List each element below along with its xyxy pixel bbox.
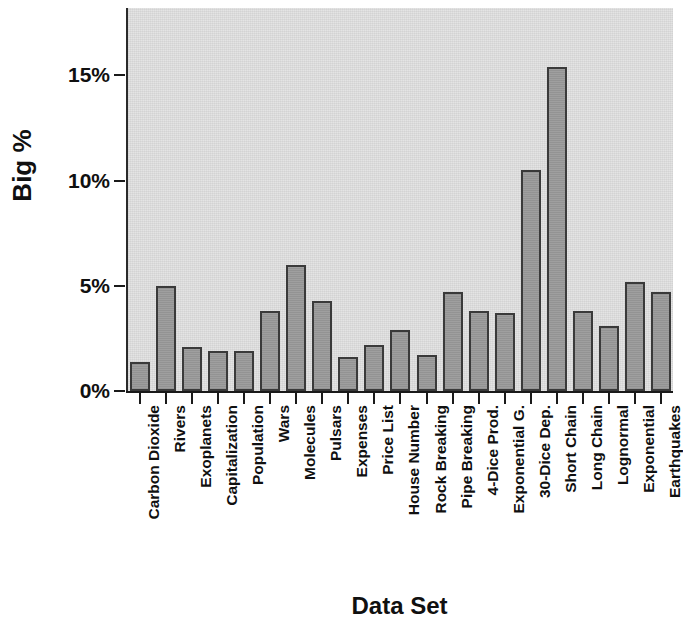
y-tick-mark [114, 285, 125, 287]
bar [573, 311, 593, 391]
x-tick-mark [556, 393, 558, 404]
y-axis-ticks: 0%5%10%15% [48, 0, 110, 630]
x-category-label: 4-Dice Prod. [485, 405, 501, 495]
x-tick-mark [660, 393, 662, 404]
bars-layer [126, 8, 673, 391]
bar [130, 362, 150, 391]
bar [495, 313, 515, 391]
x-category-label: Exponential [641, 405, 657, 493]
bar [625, 282, 645, 391]
y-tick-label: 0% [48, 380, 110, 401]
x-category-label: 30-Dice Dep. [537, 405, 553, 498]
y-tick-label: 5% [48, 275, 110, 296]
x-category-label: Exoplanets [198, 405, 214, 488]
bar [312, 301, 332, 391]
y-tick-mark [114, 180, 125, 182]
y-tick-mark [114, 74, 125, 76]
x-tick-mark [295, 393, 297, 404]
bar [469, 311, 489, 391]
x-category-label: Lognormal [615, 405, 631, 485]
bar [364, 345, 384, 391]
x-category-label: House Number [406, 405, 422, 515]
bar [443, 292, 463, 391]
x-tick-mark [139, 393, 141, 404]
bar [521, 170, 541, 391]
x-category-label: Rivers [172, 405, 188, 452]
x-category-label: Long Chain [589, 405, 605, 490]
x-tick-mark [634, 393, 636, 404]
x-category-label: Price List [380, 405, 396, 475]
x-category-label: Expenses [354, 405, 370, 477]
x-axis-title: Data Set [126, 592, 673, 620]
x-category-label: Carbon Dioxide [146, 405, 162, 520]
x-tick-mark [269, 393, 271, 404]
bar [417, 355, 437, 391]
x-tick-mark [347, 393, 349, 404]
x-category-label: Exponential G. [511, 405, 527, 514]
x-tick-mark [217, 393, 219, 404]
x-axis-category-labels: Carbon DioxideRiversExoplanetsCapitaliza… [126, 405, 673, 580]
bar [286, 265, 306, 391]
x-tick-mark [191, 393, 193, 404]
bar [208, 351, 228, 391]
y-axis-title: Big % [7, 106, 38, 226]
x-tick-mark [478, 393, 480, 404]
x-category-label: Pulsars [328, 405, 344, 461]
bar [156, 286, 176, 391]
y-tick-label: 10% [48, 170, 110, 191]
bar [338, 357, 358, 391]
x-category-label: Earthquakes [667, 405, 683, 498]
bar [234, 351, 254, 391]
x-tick-mark [504, 393, 506, 404]
y-tick-mark [114, 390, 125, 392]
x-tick-mark [243, 393, 245, 404]
x-axis-ticks [126, 393, 673, 405]
x-tick-mark [165, 393, 167, 404]
x-tick-mark [530, 393, 532, 404]
y-tick-label: 15% [48, 64, 110, 85]
bar [182, 347, 202, 391]
bar [547, 67, 567, 391]
x-category-label: Capitalization [224, 405, 240, 506]
x-category-label: Molecules [302, 405, 318, 480]
bar [599, 326, 619, 391]
bar [260, 311, 280, 391]
x-tick-mark [373, 393, 375, 404]
x-tick-mark [399, 393, 401, 404]
x-tick-mark [426, 393, 428, 404]
x-category-label: Population [250, 405, 266, 485]
x-category-label: Pipe Breaking [459, 405, 475, 508]
x-tick-mark [452, 393, 454, 404]
x-category-label: Wars [276, 405, 292, 442]
x-tick-mark [321, 393, 323, 404]
bar [651, 292, 671, 391]
x-tick-mark [582, 393, 584, 404]
bar [390, 330, 410, 391]
x-category-label: Rock Breaking [433, 405, 449, 514]
x-category-label: Short Chain [563, 405, 579, 493]
x-tick-mark [608, 393, 610, 404]
